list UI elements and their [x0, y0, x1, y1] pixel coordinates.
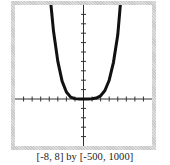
function-graph: [15, 5, 152, 146]
axes: [15, 5, 152, 146]
window-range-caption: [-8, 8] by [-500, 1000]: [0, 151, 170, 162]
calculator-window-frame: [11, 1, 156, 150]
plot-area: [15, 5, 152, 146]
